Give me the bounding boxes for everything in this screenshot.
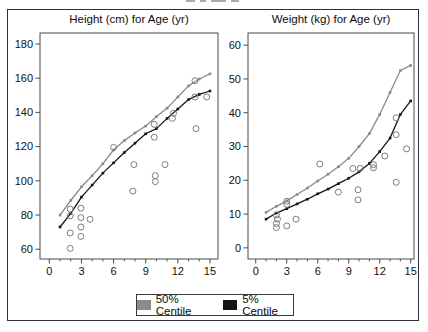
x-tick-label: 12 (374, 265, 386, 277)
50-centilemarker (399, 69, 402, 72)
weight-for-age-chart: 036912150102030405060 (216, 28, 428, 288)
observation-point (151, 121, 157, 127)
5-centileline (60, 91, 210, 227)
observation-point (67, 230, 73, 236)
y-tick-label: 60 (21, 243, 33, 255)
5-centilemarker (155, 127, 158, 130)
y-tick-label: 120 (15, 140, 33, 152)
observation-point (382, 153, 388, 159)
5-centilemarker (327, 188, 330, 191)
growth-chart-figure: Height (cm) for Age (yr) Weight (kg) for… (0, 0, 428, 332)
legend-swatch-50-centile (137, 300, 151, 310)
50-centilemarker (80, 186, 83, 189)
observation-point (335, 189, 341, 195)
x-tick-label: 3 (78, 265, 84, 277)
50-centilemarker (409, 64, 412, 67)
50-centilemarker (316, 180, 319, 183)
plot-frame (248, 33, 414, 259)
50-centilemarker (144, 125, 147, 128)
50-centilemarker (177, 96, 180, 99)
50-centilemarker (327, 173, 330, 176)
50-centilemarker (91, 174, 94, 177)
observation-point (284, 223, 290, 229)
observation-point (193, 126, 199, 132)
observation-point (355, 187, 361, 193)
5-centilemarker (389, 137, 392, 140)
x-tick-label: 0 (253, 265, 259, 277)
5-centilemarker (337, 182, 340, 185)
observation-point (204, 94, 210, 100)
x-tick-label: 15 (204, 265, 216, 277)
50-centilemarker (166, 107, 169, 110)
y-tick-label: 80 (21, 209, 33, 221)
observation-point (404, 146, 410, 152)
observation-point (162, 162, 168, 168)
50-centilemarker (265, 211, 268, 214)
observation-point (67, 206, 73, 212)
x-tick-label: 6 (111, 265, 117, 277)
y-tick-label: 180 (15, 38, 33, 50)
observation-point (87, 216, 93, 222)
50-centilemarker (155, 115, 158, 118)
observation-point (393, 179, 399, 185)
observation-point (131, 162, 137, 168)
legend: 50% Centile 5% Centile (136, 294, 294, 316)
5-centilemarker (378, 150, 381, 153)
5-centilemarker (144, 132, 147, 135)
observation-point (393, 132, 399, 138)
plot-frame (40, 33, 218, 259)
50-centilemarker (134, 132, 137, 135)
5-centilemarker (59, 226, 62, 229)
x-tick-label: 15 (405, 265, 417, 277)
5-centilemarker (177, 108, 180, 111)
5-centilemarker (265, 218, 268, 221)
x-tick-label: 3 (284, 265, 290, 277)
y-tick-label: 60 (229, 39, 241, 51)
5-centilemarker (296, 203, 299, 206)
y-tick-label: 0 (235, 242, 241, 254)
observation-point (273, 225, 279, 231)
x-tick-label: 12 (172, 265, 184, 277)
legend-item-50-centile: 50% Centile (137, 293, 212, 317)
50-centilemarker (368, 132, 371, 135)
50-centilemarker (209, 73, 212, 76)
observation-point (355, 197, 361, 203)
5-centilemarker (187, 98, 190, 101)
5-centilemarker (123, 151, 126, 154)
observation-point (78, 205, 84, 211)
legend-label-50-centile: 50% Centile (156, 293, 213, 317)
50-centilemarker (102, 162, 105, 165)
50-centilemarker (59, 214, 62, 217)
y-tick-label: 140 (15, 106, 33, 118)
50-centilemarker (389, 91, 392, 94)
x-tick-label: 0 (46, 265, 52, 277)
y-tick-label: 50 (229, 73, 241, 85)
x-tick-label: 9 (143, 265, 149, 277)
legend-swatch-5-centile (223, 300, 237, 310)
observation-point (151, 134, 157, 140)
50-centilemarker (69, 199, 72, 202)
5-centilemarker (102, 172, 105, 175)
observation-point (152, 179, 158, 185)
observation-point (317, 161, 323, 167)
y-tick-label: 40 (229, 107, 241, 119)
y-tick-label: 10 (229, 208, 241, 220)
5-centilemarker (306, 198, 309, 201)
y-tick-label: 20 (229, 174, 241, 186)
5-centilemarker (80, 196, 83, 199)
observation-point (350, 165, 356, 171)
50-centilemarker (378, 113, 381, 116)
x-tick-label: 9 (346, 265, 352, 277)
observation-point (78, 215, 84, 221)
5-centilemarker (112, 162, 115, 165)
5-centilemarker (347, 177, 350, 180)
observation-point (152, 173, 158, 179)
50-centilemarker (296, 193, 299, 196)
observation-point (130, 188, 136, 194)
5-centilemarker (91, 184, 94, 187)
50-centilemarker (306, 187, 309, 190)
5-centilemarker (134, 142, 137, 145)
left-panel-title: Height (cm) for Age (yr) (40, 13, 218, 28)
y-tick-label: 30 (229, 140, 241, 152)
cropped-title-fragment (186, 0, 250, 3)
